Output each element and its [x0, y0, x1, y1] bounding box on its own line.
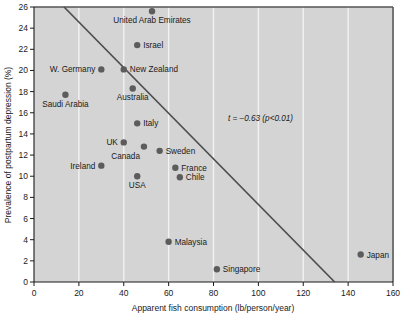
data-point-usa: [134, 173, 140, 179]
data-point-united-arab-emirates: [149, 8, 155, 14]
data-point-label-israel: Israel: [143, 41, 163, 50]
data-point-label-malaysia: Malaysia: [175, 238, 208, 247]
x-tick-label: 20: [74, 288, 84, 298]
x-axis: 020406080100120140160: [32, 282, 401, 298]
y-axis-title: Prevalence of postpartum depression (%): [3, 67, 13, 224]
x-tick-label: 40: [119, 288, 129, 298]
y-tick-label: 6: [23, 214, 28, 224]
data-point-australia: [130, 85, 136, 91]
data-point-singapore: [214, 266, 220, 272]
chart-canvas: United Arab EmiratesIsraelW. GermanyNew …: [0, 0, 408, 323]
data-point-canada: [141, 143, 147, 149]
data-point-label-sweden: Sweden: [166, 147, 196, 156]
data-point-israel: [134, 42, 140, 48]
data-point-label-usa: USA: [129, 181, 146, 190]
data-point-label-singapore: Singapore: [223, 265, 261, 274]
data-point-label-japan: Japan: [367, 251, 390, 260]
y-tick-label: 12: [19, 150, 29, 160]
data-point-ireland: [98, 162, 104, 168]
y-axis: 02468101214161820222426: [19, 2, 34, 287]
data-point-label-ireland: Ireland: [70, 162, 95, 171]
y-tick-label: 8: [23, 192, 28, 202]
y-tick-label: 20: [19, 65, 29, 75]
correlation-annotation: t = –0.63 (p<0.01): [228, 114, 293, 123]
data-point-label-united-arab-emirates: United Arab Emirates: [113, 16, 190, 25]
y-tick-label: 16: [19, 108, 29, 118]
y-tick-label: 24: [19, 23, 29, 33]
y-tick-label: 18: [19, 87, 29, 97]
y-tick-label: 10: [19, 171, 29, 181]
data-point-label-italy: Italy: [143, 119, 159, 128]
x-axis-title: Apparent fish consumption (lb/person/yea…: [132, 303, 295, 313]
y-tick-label: 22: [19, 44, 29, 54]
x-tick-label: 100: [251, 288, 265, 298]
y-tick-label: 14: [19, 129, 29, 139]
data-point-france: [172, 165, 178, 171]
x-tick-label: 160: [386, 288, 400, 298]
scatter-plot-figure: United Arab EmiratesIsraelW. GermanyNew …: [0, 0, 408, 323]
y-tick-label: 26: [19, 2, 29, 12]
x-tick-label: 140: [341, 288, 355, 298]
data-point-new-zealand: [121, 66, 127, 72]
data-point-label-canada: Canada: [111, 152, 140, 161]
y-tick-label: 4: [23, 235, 28, 245]
data-point-malaysia: [165, 239, 171, 245]
x-tick-label: 0: [32, 288, 37, 298]
x-tick-label: 80: [209, 288, 219, 298]
data-point-label-saudi-arabia: Saudi Arabia: [42, 100, 89, 109]
data-point-label-uk: UK: [106, 138, 118, 147]
y-tick-label: 2: [23, 256, 28, 266]
data-point-label-france: France: [181, 164, 207, 173]
x-tick-label: 60: [164, 288, 174, 298]
data-point-saudi-arabia: [62, 92, 68, 98]
data-point-label-chile: Chile: [186, 173, 205, 182]
data-point-label-australia: Australia: [117, 93, 149, 102]
x-tick-label: 120: [296, 288, 310, 298]
y-tick-label: 0: [23, 277, 28, 287]
data-point-japan: [357, 251, 363, 257]
data-point-label-w-germany: W. Germany: [50, 65, 96, 74]
data-point-w-germany: [98, 66, 104, 72]
data-point-label-new-zealand: New Zealand: [130, 65, 179, 74]
data-point-chile: [177, 174, 183, 180]
data-point-sweden: [156, 148, 162, 154]
data-point-uk: [121, 139, 127, 145]
data-point-italy: [134, 120, 140, 126]
